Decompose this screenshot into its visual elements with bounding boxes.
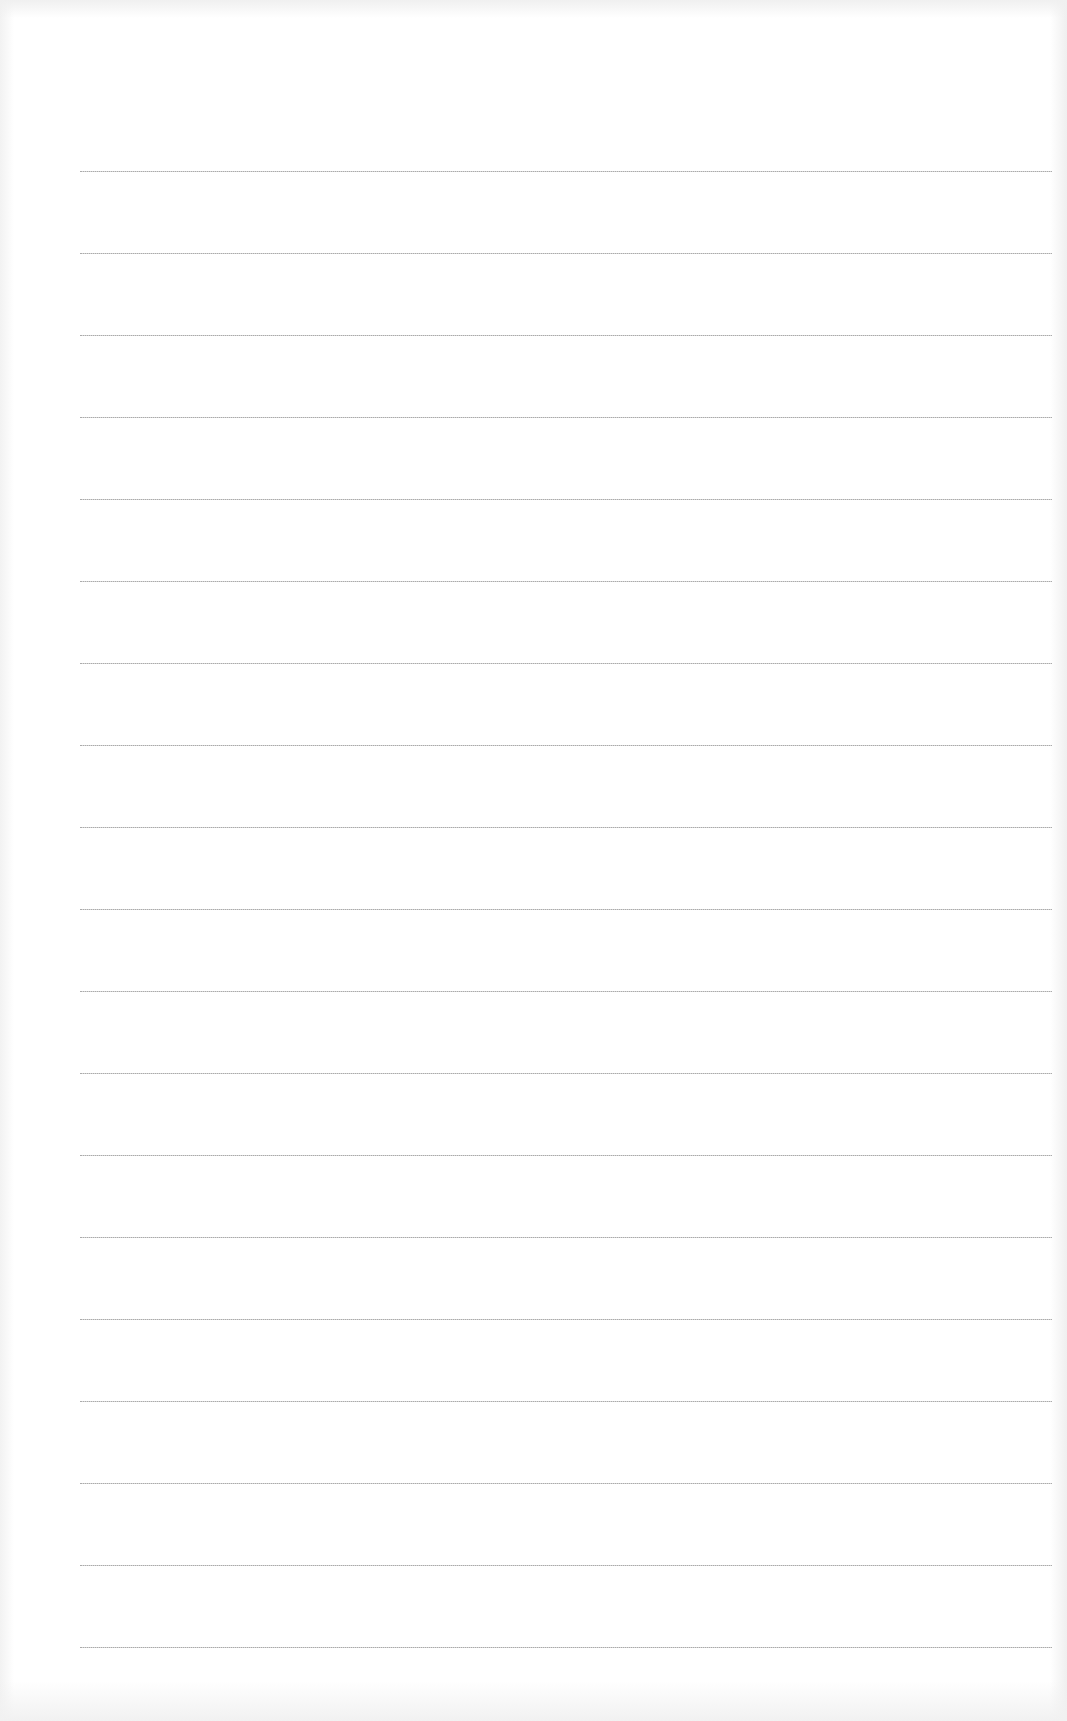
- ruled-line: [80, 581, 1052, 582]
- ruled-line: [80, 1647, 1052, 1648]
- ruled-line: [80, 171, 1052, 172]
- ruled-line: [80, 1237, 1052, 1238]
- ruled-line: [80, 909, 1052, 910]
- ruled-line: [80, 991, 1052, 992]
- ruled-line: [80, 1565, 1052, 1566]
- ruled-line: [80, 335, 1052, 336]
- lined-paper-page: [0, 0, 1067, 1721]
- ruled-line: [80, 1401, 1052, 1402]
- ruled-line: [80, 417, 1052, 418]
- ruled-line: [80, 1483, 1052, 1484]
- ruled-line: [80, 253, 1052, 254]
- ruled-line: [80, 1073, 1052, 1074]
- ruled-line: [80, 1155, 1052, 1156]
- ruled-line: [80, 827, 1052, 828]
- ruled-line: [80, 1319, 1052, 1320]
- ruled-line: [80, 499, 1052, 500]
- ruled-line: [80, 745, 1052, 746]
- ruled-line: [80, 663, 1052, 664]
